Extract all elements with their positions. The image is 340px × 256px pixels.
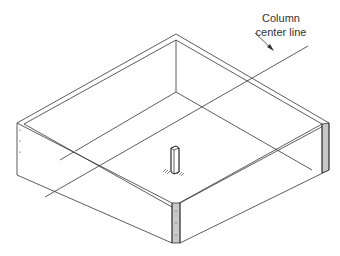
nail-marks [19, 129, 176, 235]
front-right-wall [172, 123, 329, 243]
front-left-wall [17, 123, 180, 243]
callout-line-1: Column [246, 11, 316, 25]
column-center-line-callout: Column center line [246, 11, 316, 39]
column-center-line [45, 46, 308, 197]
right-corner-end-grain [322, 123, 329, 173]
back-left-wall-top [17, 34, 176, 124]
column-post [171, 146, 179, 174]
callout-line-2: center line [246, 25, 316, 39]
